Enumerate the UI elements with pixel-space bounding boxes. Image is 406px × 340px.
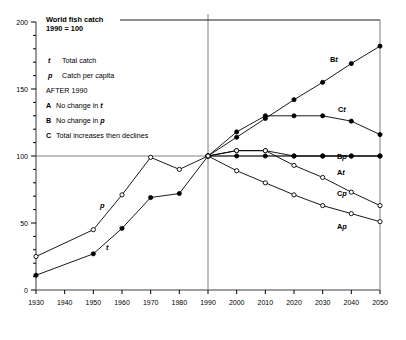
data-point-p <box>91 228 95 232</box>
data-point-At <box>349 154 353 158</box>
data-point-t <box>34 273 38 277</box>
x-axis-tick-label: 1940 <box>57 299 73 306</box>
x-axis-tick-label: 1970 <box>143 299 159 306</box>
data-point-Bt <box>321 80 325 84</box>
data-point-Ap <box>292 193 296 197</box>
data-point-Ap <box>206 154 210 158</box>
data-point-Cp <box>349 190 353 194</box>
series-line-p <box>36 156 208 257</box>
data-point-Ap <box>235 169 239 173</box>
data-point-Cp <box>235 149 239 153</box>
legend-scenario-label-B: No change in p <box>56 116 105 125</box>
data-point-p <box>120 193 124 197</box>
data-point-t <box>120 226 124 230</box>
x-axis-tick-label: 2020 <box>286 299 302 306</box>
curve-label-t: t <box>106 243 109 252</box>
data-point-Ap <box>263 181 267 185</box>
curve-label-Ap: Ap <box>337 222 347 231</box>
data-point-Ap <box>321 203 325 207</box>
legend-key-p: p <box>47 71 53 80</box>
data-point-Bt <box>378 44 382 48</box>
data-point-t <box>91 252 95 256</box>
data-point-Cp <box>378 203 382 207</box>
x-axis-tick-label: 1950 <box>86 299 102 306</box>
data-point-Ap <box>378 220 382 224</box>
y-axis-tick-label: 200 <box>16 19 28 26</box>
data-point-t <box>177 191 181 195</box>
data-point-Ct <box>292 114 296 118</box>
data-point-At <box>378 154 382 158</box>
y-axis-tick-label: 150 <box>16 86 28 93</box>
x-axis-tick-label: 2030 <box>315 299 331 306</box>
data-point-Ct <box>235 130 239 134</box>
legend-scenario-key-B: B <box>46 116 51 125</box>
legend-scenario-label-A: No change in t <box>56 101 103 110</box>
legend-scenario-key-A: A <box>46 101 51 110</box>
data-point-At <box>235 154 239 158</box>
x-axis-tick-label: 2010 <box>258 299 274 306</box>
data-point-Ap <box>349 212 353 216</box>
data-point-At <box>292 154 296 158</box>
legend-label-p: Catch per capita <box>62 71 114 80</box>
data-point-Ct <box>263 114 267 118</box>
data-point-Cp <box>292 163 296 167</box>
chart-subtitle: 1990 = 100 <box>46 24 83 33</box>
x-axis-tick-label: 2040 <box>344 299 360 306</box>
legend-section-heading: AFTER 1990 <box>46 86 88 95</box>
curve-label-Cp: Cp <box>337 189 347 198</box>
data-point-t <box>149 195 153 199</box>
data-point-Bt <box>349 61 353 65</box>
curve-label-Bt: Bt <box>330 55 338 64</box>
x-axis-tick-label: 2000 <box>229 299 245 306</box>
data-point-p <box>149 155 153 159</box>
curve-label-Ct: Ct <box>338 105 346 114</box>
x-axis-tick-label: 1990 <box>200 299 216 306</box>
curve-label-Bp: Bp <box>337 152 347 161</box>
legend-key-t: t <box>48 56 51 65</box>
chart-title: World fish catch <box>46 15 104 24</box>
x-axis-tick-label: 1960 <box>114 299 130 306</box>
x-axis-tick-label: 1930 <box>28 299 44 306</box>
chart-container: 0501001502001930194019501960197019801990… <box>0 0 406 340</box>
legend-scenario-key-C: C <box>46 131 51 140</box>
data-point-Cp <box>263 149 267 153</box>
world-fish-catch-chart: 0501001502001930194019501960197019801990… <box>0 0 406 340</box>
data-point-p <box>177 167 181 171</box>
x-axis-tick-label: 1980 <box>172 299 188 306</box>
curve-label-At: At <box>337 168 345 177</box>
data-point-Ct <box>321 114 325 118</box>
data-point-Ct <box>349 119 353 123</box>
data-point-Bt <box>235 135 239 139</box>
data-point-Bt <box>292 98 296 102</box>
data-point-Cp <box>321 175 325 179</box>
y-axis-tick-label: 0 <box>24 287 28 294</box>
y-axis-tick-label: 100 <box>16 153 28 160</box>
data-point-Ct <box>378 132 382 136</box>
y-axis-tick-label: 50 <box>20 220 28 227</box>
curve-label-p: p <box>99 201 105 210</box>
data-point-At <box>263 154 267 158</box>
series-line-Ct <box>208 116 380 156</box>
series-line-t <box>36 156 208 275</box>
data-point-At <box>321 154 325 158</box>
legend-scenario-label-C: Total increases then declines <box>56 131 149 140</box>
legend-label-t: Total catch <box>62 56 96 65</box>
x-axis-tick-label: 2050 <box>372 299 388 306</box>
data-point-p <box>34 254 38 258</box>
